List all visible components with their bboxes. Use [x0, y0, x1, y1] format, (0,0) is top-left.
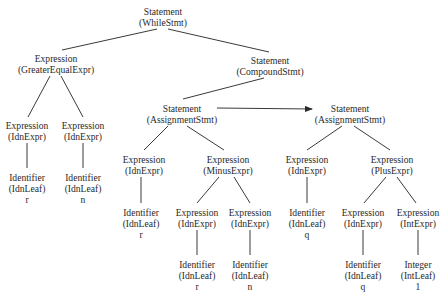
node-category: Statement — [236, 55, 303, 66]
node-category: Statement — [315, 103, 385, 114]
node-category: Expression — [286, 154, 329, 165]
node-kind: (IdnExpr) — [62, 131, 105, 142]
tree-edge — [168, 29, 269, 52]
node-category: Expression — [371, 154, 414, 165]
node-category: Identifier — [345, 259, 382, 270]
node-category: Statement — [139, 6, 187, 17]
tree-edge — [61, 76, 83, 117]
tree-edge — [307, 126, 342, 150]
node-value: r — [123, 229, 160, 240]
node-value: q — [289, 229, 326, 240]
tree-node-statement: Statement(WhileStmt) — [139, 6, 187, 28]
node-kind: (MinusExpr) — [203, 165, 253, 176]
node-value: n — [232, 281, 269, 292]
sequence-arrow — [217, 108, 312, 109]
node-category: Identifier — [9, 172, 46, 183]
tree-node-identifier: Identifier(IdnLeaf)r — [123, 207, 160, 240]
tree-node-statement: Statement(CompoundStmt) — [236, 55, 303, 77]
node-kind: (GreaterEqualExpr) — [18, 64, 94, 75]
node-category: Expression — [62, 120, 105, 131]
tree-edge — [364, 177, 386, 203]
node-kind: (IdnLeaf) — [179, 270, 216, 281]
node-category: Expression — [18, 53, 94, 64]
node-value: q — [345, 281, 382, 292]
tree-node-integer: Integer(IntLeaf)1 — [401, 259, 436, 292]
node-kind: (IdnExpr) — [176, 218, 219, 229]
node-kind: (IdnLeaf) — [123, 218, 160, 229]
node-category: Expression — [6, 120, 49, 131]
node-kind: (PlusExpr) — [371, 165, 414, 176]
node-category: Expression — [229, 207, 272, 218]
tree-node-identifier: Identifier(IdnLeaf)q — [289, 207, 326, 240]
node-category: Expression — [123, 154, 166, 165]
node-value: 1 — [401, 281, 436, 292]
node-kind: (IdnLeaf) — [232, 270, 269, 281]
node-category: Expression — [342, 207, 385, 218]
tree-node-identifier: Identifier(IdnLeaf)r — [9, 172, 46, 205]
node-kind: (IdnExpr) — [123, 165, 166, 176]
node-kind: (AssignmentStmt) — [147, 114, 217, 125]
node-kind: (IdnExpr) — [6, 131, 49, 142]
node-category: Expression — [397, 207, 440, 218]
tree-node-identifier: Identifier(IdnLeaf)r — [179, 259, 216, 292]
tree-edge — [197, 177, 219, 203]
tree-node-expression: Expression(IdnExpr) — [6, 120, 49, 142]
tree-edge — [144, 126, 168, 150]
node-kind: (IdnLeaf) — [289, 218, 326, 229]
node-kind: (CompoundStmt) — [236, 66, 303, 77]
node-category: Expression — [203, 154, 253, 165]
node-category: Statement — [147, 103, 217, 114]
node-kind: (IdnExpr) — [229, 218, 272, 229]
node-category: Identifier — [65, 172, 102, 183]
tree-node-expression: Expression(MinusExpr) — [203, 154, 253, 176]
tree-node-statement: Statement(AssignmentStmt) — [147, 103, 217, 125]
node-category: Identifier — [289, 207, 326, 218]
node-kind: (IdnExpr) — [286, 165, 329, 176]
node-category: Identifier — [123, 207, 160, 218]
tree-node-expression: Expression(IdnExpr) — [342, 207, 385, 229]
tree-edge — [28, 76, 50, 117]
tree-edge — [354, 126, 390, 150]
node-kind: (IntExpr) — [397, 218, 440, 229]
tree-node-identifier: Identifier(IdnLeaf)n — [65, 172, 102, 205]
node-kind: (IdnLeaf) — [9, 183, 46, 194]
node-kind: (WhileStmt) — [139, 17, 187, 28]
node-value: r — [179, 281, 216, 292]
tree-edge — [183, 78, 264, 99]
tree-node-expression: Expression(IdnExpr) — [286, 154, 329, 176]
tree-node-expression: Expression(IdnExpr) — [123, 154, 166, 176]
tree-node-expression: Expression(IntExpr) — [397, 207, 440, 229]
node-category: Identifier — [179, 259, 216, 270]
tree-edges — [0, 0, 445, 297]
node-kind: (AssignmentStmt) — [315, 114, 385, 125]
tree-edge — [62, 29, 157, 50]
node-kind: (IdnLeaf) — [345, 270, 382, 281]
tree-edge — [187, 126, 224, 150]
tree-node-expression: Expression(IdnExpr) — [176, 207, 219, 229]
tree-node-identifier: Identifier(IdnLeaf)q — [345, 259, 382, 292]
tree-edge — [397, 177, 416, 203]
tree-node-expression: Expression(IdnExpr) — [229, 207, 272, 229]
node-kind: (IdnLeaf) — [65, 183, 102, 194]
tree-node-expression: Expression(GreaterEqualExpr) — [18, 53, 94, 75]
node-value: r — [9, 194, 46, 205]
tree-node-statement: Statement(AssignmentStmt) — [315, 103, 385, 125]
node-kind: (IntLeaf) — [401, 270, 436, 281]
node-category: Identifier — [232, 259, 269, 270]
tree-node-identifier: Identifier(IdnLeaf)n — [232, 259, 269, 292]
tree-node-expression: Expression(IdnExpr) — [62, 120, 105, 142]
node-category: Expression — [176, 207, 219, 218]
node-value: n — [65, 194, 102, 205]
node-category: Integer — [401, 259, 436, 270]
node-kind: (IdnExpr) — [342, 218, 385, 229]
tree-node-expression: Expression(PlusExpr) — [371, 154, 414, 176]
tree-edge — [234, 177, 250, 203]
